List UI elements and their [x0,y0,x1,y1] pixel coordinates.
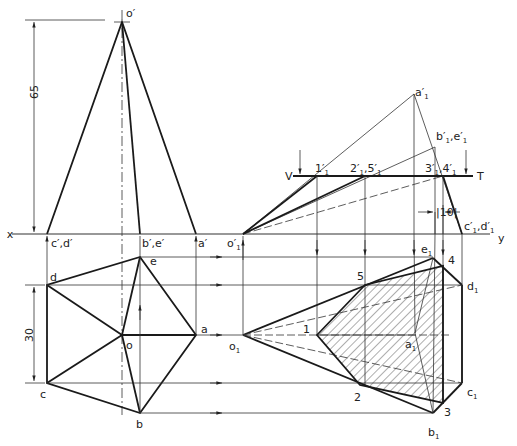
label-b1: b1 [428,426,439,441]
top-view [47,236,196,413]
y-label: y [498,232,505,245]
label-1-prime: 1′1 [315,162,329,177]
label-b-e-prime: b′,e′ [142,237,165,250]
height-dimension-label: 65 [28,85,41,99]
label-t: T [476,170,484,183]
front-view [47,10,196,415]
side-dimension-label: 30 [23,328,36,342]
section-hatch [317,266,443,403]
dimension-65: 65 [25,20,105,232]
label-d: d [50,271,57,284]
label-c1: c1 [467,386,478,401]
label-3-4-prime: 3′1,4′1 [425,162,456,177]
label-v: V [285,170,293,183]
label-a: a [201,323,208,336]
front-outline [47,22,196,234]
label-c1-d1-prime: c′1,d′1 [464,220,494,235]
front-edge-be [122,22,140,234]
label-b: b [136,418,143,431]
label-4: 4 [448,254,455,267]
label-2-5-prime: 2′1,5′1 [350,162,381,177]
label-a1-prime: a′1 [415,86,429,101]
label-3: 3 [444,406,451,419]
dimension-30: 30 [23,285,45,383]
label-o-prime: o′ [126,7,136,20]
label-o: o [126,339,133,352]
label-o1-prime: o′1 [227,237,241,252]
projection-drawing: 65 x y c′,d′ b′,e′ a′ o′ d e a o c b 30 [0,0,517,446]
label-a-prime: a′ [198,237,208,250]
aux-top-view [243,258,462,413]
label-b1-e1-prime: b′1,e′1 [436,130,467,145]
label-c-d-prime: c′,d′ [51,237,73,250]
label-2: 2 [354,391,361,404]
label-o1: o1 [229,340,240,355]
label-1: 1 [303,323,310,336]
label-5: 5 [357,270,364,283]
x-label: x [7,228,14,241]
label-c: c [40,388,46,401]
label-d1: d1 [467,280,478,295]
label-e1: e1 [421,243,432,258]
offset-dimension-label: |10| [436,206,457,219]
